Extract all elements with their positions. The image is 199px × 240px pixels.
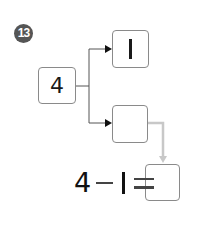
bottom-answer-box[interactable] (112, 105, 148, 143)
equation-right-operand-one (122, 172, 125, 194)
start-value: 4 (50, 73, 64, 98)
bottom-arrowhead-icon (105, 119, 112, 127)
top-arrowhead-icon (105, 45, 112, 53)
answer-connector (148, 123, 163, 158)
top-result-box (112, 30, 149, 68)
equation: 4 (74, 167, 154, 199)
equation-left-operand: 4 (74, 167, 91, 199)
equals-sign-icon (134, 178, 154, 189)
top-result-value-one (129, 39, 132, 59)
answer-arrowhead-icon (159, 156, 167, 163)
start-value-box: 4 (38, 67, 76, 104)
minus-sign-icon (96, 182, 113, 185)
